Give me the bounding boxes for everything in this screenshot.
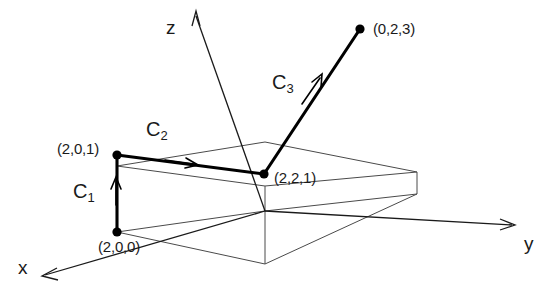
vertex-dot-2-0-1 bbox=[112, 150, 121, 159]
curve-label-c2-sub: 2 bbox=[160, 128, 167, 143]
figure-canvas: z y x (2,0,1) (2,0,0) (2,2,1) (0,2,3) C1… bbox=[0, 0, 557, 288]
box-floor-edge-right bbox=[265, 194, 417, 211]
y-axis-line bbox=[265, 211, 512, 225]
box-top-edge-left bbox=[117, 166, 265, 186]
x-axis-label: x bbox=[18, 258, 28, 277]
vertex-dot-2-2-1 bbox=[259, 169, 268, 178]
curve-label-c3-base: C bbox=[272, 71, 286, 93]
curve-label-c1: C1 bbox=[73, 181, 95, 201]
box-top-edge-back bbox=[117, 142, 265, 166]
box-floor-edge-left bbox=[117, 211, 265, 232]
y-axis-label: y bbox=[524, 234, 534, 253]
point-label-0-2-3: (0,2,3) bbox=[373, 21, 415, 36]
curve-label-c1-base: C bbox=[73, 180, 87, 202]
box-top-edge-back-right bbox=[265, 142, 417, 172]
vertex-dot-2-0-0 bbox=[112, 227, 121, 236]
vertex-dot-0-2-3 bbox=[355, 24, 364, 33]
curve-label-c3: C3 bbox=[272, 72, 294, 92]
curve-label-c2: C2 bbox=[146, 119, 168, 139]
c3-direction-arrowhead bbox=[312, 74, 322, 87]
curve-c3-segment bbox=[264, 29, 360, 174]
curve-label-c3-sub: 3 bbox=[286, 81, 293, 96]
x-axis-line bbox=[45, 211, 265, 275]
curve-label-c2-base: C bbox=[146, 118, 160, 140]
z-axis-arrowhead bbox=[192, 11, 200, 26]
point-label-2-0-1: (2,0,1) bbox=[57, 141, 99, 156]
point-label-2-0-0: (2,0,0) bbox=[98, 239, 140, 254]
curve-label-c1-sub: 1 bbox=[87, 190, 94, 205]
point-label-2-2-1: (2,2,1) bbox=[274, 170, 316, 185]
box-floor-edge-front-right bbox=[265, 194, 417, 264]
curve-c2-segment bbox=[117, 155, 264, 174]
z-axis-label: z bbox=[166, 18, 176, 37]
